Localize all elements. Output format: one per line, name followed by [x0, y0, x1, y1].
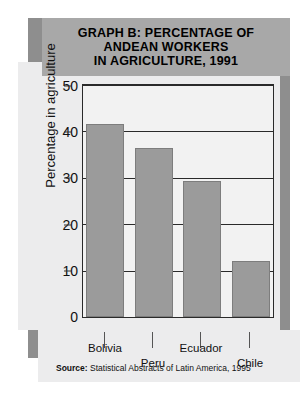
chart-title-banner: GRAPH B: PERCENTAGE OF ANDEAN WORKERS IN… — [42, 18, 290, 76]
chart-title-line-1: GRAPH B: PERCENTAGE OF — [78, 26, 254, 40]
source-note: Source: Statistical Abstracts of Latin A… — [56, 363, 251, 373]
x-tick-mark-chile — [249, 332, 250, 348]
y-tick-label-0: 0 — [52, 309, 78, 325]
bar-peru — [135, 148, 173, 317]
y-tick-mark-40 — [64, 132, 71, 133]
bar-ecuador — [183, 181, 221, 317]
y-tick-mark-20 — [64, 225, 71, 226]
chart-title: GRAPH B: PERCENTAGE OF ANDEAN WORKERS IN… — [78, 26, 254, 68]
chart-title-line-2: ANDEAN WORKERS — [78, 40, 254, 54]
bar-chile — [232, 261, 270, 317]
x-tick-label-bolivia: Bolivia — [88, 342, 122, 354]
source-text: Statistical Abstracts of Latin America, … — [90, 363, 251, 373]
bar-series — [83, 85, 273, 317]
bar-bolivia — [86, 124, 124, 317]
source-label: Source: — [56, 363, 88, 373]
x-tick-mark-peru — [152, 332, 153, 348]
y-axis: 50 40 30 20 10 0 — [34, 0, 78, 396]
plot-area — [82, 84, 274, 318]
x-tick-label-ecuador: Ecuador — [180, 342, 223, 354]
chart-title-line-3: IN AGRICULTURE, 1991 — [78, 54, 254, 68]
y-tick-mark-10 — [64, 271, 71, 272]
chart-figure: GRAPH B: PERCENTAGE OF ANDEAN WORKERS IN… — [0, 0, 308, 396]
y-tick-mark-30 — [64, 178, 71, 179]
y-tick-mark-50 — [64, 86, 71, 87]
